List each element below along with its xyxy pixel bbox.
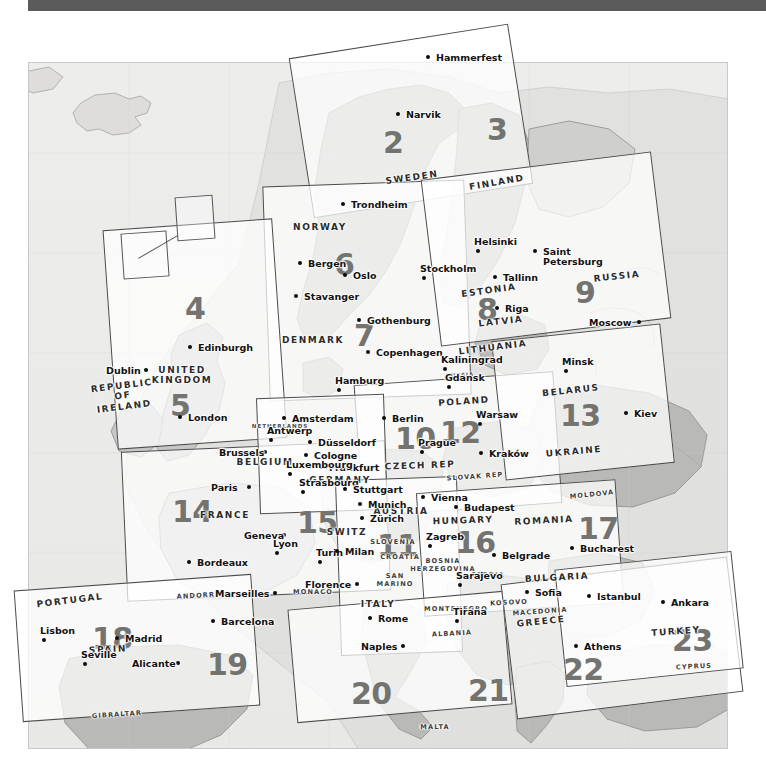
city-label-budapest: Budapest [464, 503, 515, 513]
tile-number-3[interactable]: 3 [487, 115, 507, 145]
country-label-malta: MALTA [420, 724, 449, 731]
city-label-stuttgart: Stuttgart [353, 485, 403, 495]
city-label-riga: Riga [505, 304, 529, 314]
city-label-prague: Prague [418, 438, 456, 448]
city-label-belgrade: Belgrade [502, 551, 550, 561]
city-label-trondheim: Trondheim [351, 200, 408, 210]
city-label-z-rich: Zürich [370, 514, 404, 524]
city-label-kiev: Kiev [634, 409, 657, 419]
city-label-lyon: Lyon [273, 539, 298, 549]
city-label-luxembourg: Luxembourg [286, 460, 353, 470]
city-label-florence: Florence [305, 580, 351, 590]
tile-number-4[interactable]: 4 [185, 294, 205, 324]
top-title-bar [28, 0, 766, 11]
city-label-tallinn: Tallinn [503, 273, 538, 283]
city-label-sarajevo: Sarajevo [456, 571, 503, 581]
city-label-stavanger: Stavanger [304, 292, 359, 302]
city-label-tirana: Tirana [453, 607, 487, 617]
city-label-brussels: Brussels [219, 448, 264, 458]
city-label-paris: Paris [211, 483, 238, 493]
city-label-kaliningrad: Kaliningrad [441, 355, 503, 365]
city-label-helsinki: Helsinki [474, 237, 517, 247]
city-label-edinburgh: Edinburgh [198, 343, 253, 353]
city-label-bucharest: Bucharest [580, 544, 634, 554]
city-label-minsk: Minsk [562, 357, 593, 367]
city-label-warsaw: Warsaw [476, 410, 518, 420]
city-label-moscow: Moscow [589, 318, 632, 328]
city-label-milan: Milan [345, 547, 374, 557]
city-label-antwerp: Antwerp [267, 426, 312, 436]
country-label-switz: SWITZ [327, 528, 367, 537]
city-label-d-sseldorf: Düsseldorf [318, 438, 376, 448]
city-label-ankara: Ankara [671, 598, 709, 608]
tile-number-13[interactable]: 13 [560, 401, 601, 431]
city-label-dublin: Dublin [106, 366, 141, 376]
city-label-madrid: Madrid [125, 634, 162, 644]
country-label-norway: NORWAY [293, 223, 347, 232]
city-label-bordeaux: Bordeaux [197, 558, 248, 568]
city-label-zagreb: Zagreb [426, 532, 464, 542]
country-label-belgium: BELGIUM [237, 458, 294, 467]
tile-number-21[interactable]: 21 [468, 676, 509, 706]
tile-number-9[interactable]: 9 [575, 278, 595, 308]
city-label-rome: Rome [378, 614, 408, 624]
country-label-slovenia: SLOVENIA [370, 539, 416, 546]
city-label-amsterdam: Amsterdam [292, 414, 354, 424]
city-label-gothenburg: Gothenburg [367, 316, 431, 326]
city-label-strasbourg: Strasbourg [299, 478, 359, 488]
country-label-italy: ITALY [361, 600, 396, 609]
country-label-united-kingdom: UNITEDKINGDOM [152, 365, 213, 386]
city-label-saint-petersburg: SaintPetersburg [543, 247, 603, 266]
city-label-naples: Naples [361, 642, 398, 652]
tile-number-20[interactable]: 20 [351, 679, 392, 709]
country-label-denmark: DENMARK [282, 336, 344, 345]
city-label-narvik: Narvik [406, 110, 441, 120]
city-label-sofia: Sofia [535, 588, 562, 598]
tile-number-17[interactable]: 17 [578, 514, 619, 544]
city-label-marseilles: Marseilles [215, 589, 270, 599]
city-label-oslo: Oslo [353, 271, 377, 281]
city-label-krak-w: Kraków [489, 449, 529, 459]
country-label-france: FRANCE [200, 511, 250, 520]
city-label-lisbon: Lisbon [40, 626, 75, 636]
city-label-stockholm: Stockholm [420, 264, 476, 274]
city-label-alicante: Alicante [132, 659, 176, 669]
city-label-vienna: Vienna [431, 493, 468, 503]
tile-number-19[interactable]: 19 [207, 650, 248, 680]
city-label-bergen: Bergen [308, 259, 346, 269]
tile-number-22[interactable]: 22 [563, 655, 604, 685]
city-label-hamburg: Hamburg [335, 376, 384, 386]
tile-number-2[interactable]: 2 [383, 128, 403, 158]
country-label-san-marino: SANMARINO [377, 573, 414, 588]
city-label-munich: Munich [368, 500, 407, 510]
city-label-barcelona: Barcelona [221, 617, 274, 627]
city-label-athens: Athens [584, 642, 622, 652]
city-label-seville: Seville [81, 650, 117, 660]
city-label-berlin: Berlin [392, 414, 424, 424]
city-label-hammerfest: Hammerfest [436, 53, 502, 63]
faroe-islands-inset [175, 195, 216, 242]
city-label-gdansk: Gdansk [445, 373, 485, 383]
city-label-istanbul: Istanbul [597, 592, 641, 602]
city-label-copenhagen: Copenhagen [376, 348, 443, 358]
city-label-london: London [188, 413, 227, 423]
